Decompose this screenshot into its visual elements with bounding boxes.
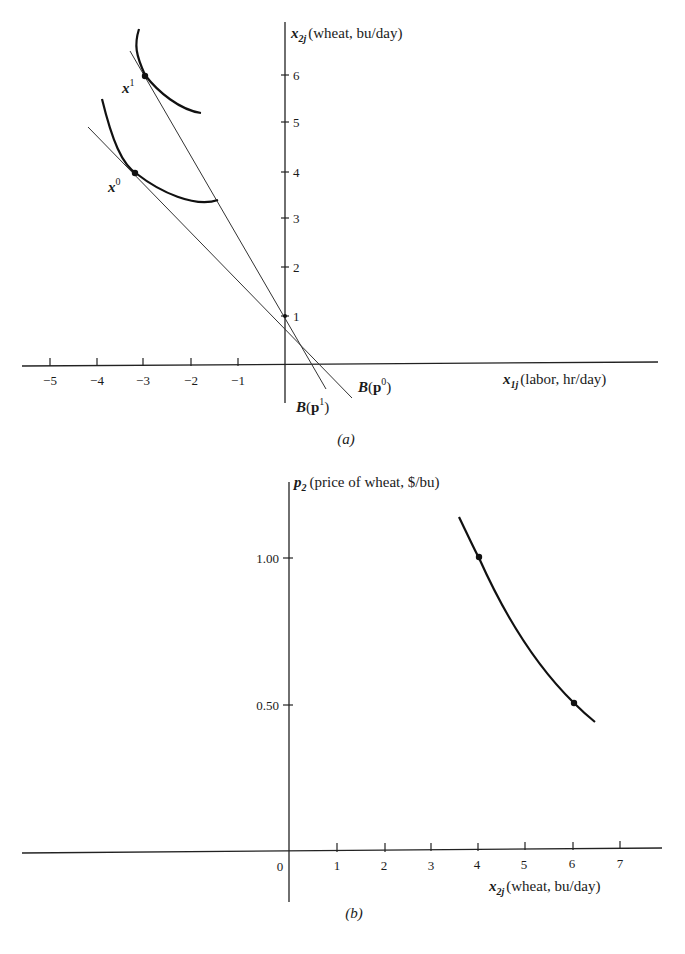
panel-b-xtick-3: 3 xyxy=(428,858,435,873)
panel-a-x-axis xyxy=(22,362,658,366)
panel-a-xtick-neg5: −5 xyxy=(43,373,57,388)
budget-intercept xyxy=(283,314,287,318)
panel-b-xtick-2: 2 xyxy=(381,858,388,873)
panel-b-y-ticks xyxy=(283,558,293,705)
panel-b-x-axis xyxy=(22,848,662,853)
point-x1 xyxy=(142,73,148,79)
panel-a-ytick-4: 4 xyxy=(293,165,300,180)
supply-point-4-1.00 xyxy=(476,554,482,560)
panel-b-xtick-6: 6 xyxy=(569,856,576,871)
panel-a: 6 5 4 3 2 1 −5 −4 −3 −2 −1 x2j(wheat, bu… xyxy=(22,22,658,448)
label-budget-p1: B(p1) xyxy=(295,396,329,416)
budget-line-p0 xyxy=(88,127,352,398)
panel-b-ytick-0-50: 0.50 xyxy=(256,698,279,713)
label-budget-p0: B(p0) xyxy=(357,376,391,396)
label-x1: x1 xyxy=(121,77,135,96)
panel-b: 1.00 0.50 0 1 2 3 4 5 6 7 p2(price of wh… xyxy=(22,474,662,922)
panel-b-xtick-1: 1 xyxy=(334,858,341,873)
panel-b-xtick-7: 7 xyxy=(617,856,624,871)
panel-b-x-axis-label: x2j(wheat, bu/day) xyxy=(488,878,600,897)
panel-a-x-axis-label: x1j(labor, hr/day) xyxy=(502,371,606,390)
panel-b-ytick-1-00: 1.00 xyxy=(256,551,279,566)
label-x0: x0 xyxy=(107,176,121,195)
panel-b-xtick-0: 0 xyxy=(277,859,284,874)
panel-a-ytick-2: 2 xyxy=(293,260,300,275)
panel-a-ytick-6: 6 xyxy=(293,68,300,83)
panel-a-ytick-1: 1 xyxy=(293,309,300,324)
point-x0 xyxy=(132,170,138,176)
panel-a-ytick-3: 3 xyxy=(293,211,300,226)
indifference-curve-x1 xyxy=(136,29,201,113)
panel-b-xtick-4: 4 xyxy=(474,857,481,872)
panel-b-caption: (b) xyxy=(345,905,363,922)
panel-a-caption: (a) xyxy=(337,431,355,448)
panel-a-xtick-neg2: −2 xyxy=(184,373,198,388)
wheat-supply-curve xyxy=(459,517,595,722)
panel-a-ytick-5: 5 xyxy=(293,115,300,130)
figure-canvas: 6 5 4 3 2 1 −5 −4 −3 −2 −1 x2j(wheat, bu… xyxy=(0,0,685,954)
panel-a-xtick-neg1: −1 xyxy=(231,373,245,388)
panel-b-y-axis-label: p2(price of wheat, $/bu) xyxy=(292,474,439,493)
supply-point-6-0.50 xyxy=(571,700,577,706)
panel-a-xtick-neg4: −4 xyxy=(90,373,104,388)
panel-b-xtick-5: 5 xyxy=(521,857,528,872)
panel-a-y-axis-label: x2j(wheat, bu/day) xyxy=(290,25,402,44)
panel-a-xtick-neg3: −3 xyxy=(136,373,150,388)
